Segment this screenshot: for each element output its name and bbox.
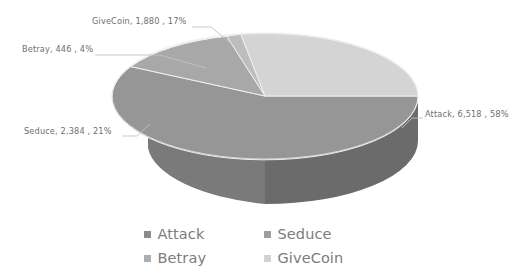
legend-label-betray: Betray bbox=[158, 250, 207, 266]
legend-label-seduce: Seduce bbox=[278, 226, 332, 242]
chart-plot-area: GiveCoin, 1,880 , 17% Betray, 446 , 4% S… bbox=[0, 0, 525, 220]
legend-item-betray[interactable]: Betray bbox=[144, 246, 262, 270]
pie-chart-figure: GiveCoin, 1,880 , 17% Betray, 446 , 4% S… bbox=[0, 0, 525, 274]
data-label-attack: Attack, 6,518 , 58% bbox=[425, 109, 509, 120]
data-label-betray: Betray, 446 , 4% bbox=[22, 44, 93, 55]
legend-swatch-seduce-icon bbox=[264, 231, 271, 238]
chart-legend: Attack Seduce Betray GiveCoin bbox=[0, 222, 525, 274]
legend-swatch-givecoin-icon bbox=[264, 255, 271, 262]
data-label-seduce: Seduce, 2,384 , 21% bbox=[24, 126, 112, 137]
legend-swatch-attack-icon bbox=[144, 231, 151, 238]
pie-slice-givecoin bbox=[241, 34, 418, 96]
legend-swatch-betray-icon bbox=[144, 255, 151, 262]
legend-item-attack[interactable]: Attack bbox=[144, 222, 262, 246]
legend-item-seduce[interactable]: Seduce bbox=[264, 222, 382, 246]
data-label-givecoin: GiveCoin, 1,880 , 17% bbox=[92, 16, 187, 27]
legend-label-givecoin: GiveCoin bbox=[278, 250, 344, 266]
legend-grid: Attack Seduce Betray GiveCoin bbox=[144, 222, 382, 270]
legend-label-attack: Attack bbox=[158, 226, 205, 242]
legend-item-givecoin[interactable]: GiveCoin bbox=[264, 246, 382, 270]
